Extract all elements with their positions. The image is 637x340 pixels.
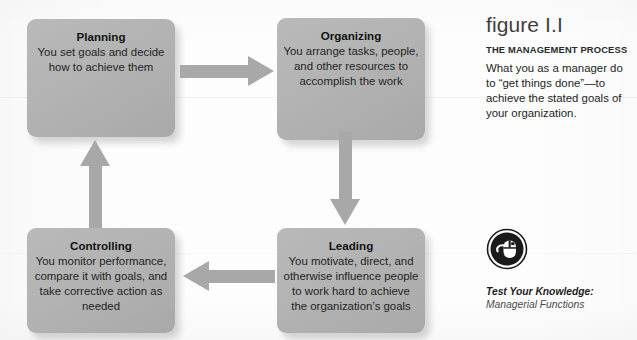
process-box-leading[interactable]: Leading You motivate, direct, and otherw… <box>277 228 425 333</box>
process-box-body: You set goals and decide how to achieve … <box>33 45 169 75</box>
figure-description: What you as a manager do to “get things … <box>486 61 634 122</box>
figure-number-label: figure I.I <box>486 14 634 35</box>
arrow-right-icon <box>180 56 274 86</box>
management-process-diagram: Planning You set goals and decide how to… <box>0 0 470 340</box>
process-box-title: Organizing <box>283 28 419 43</box>
process-box-title: Controlling <box>33 238 169 253</box>
arrow-down-icon <box>330 131 360 225</box>
arrow-left-icon <box>183 261 275 291</box>
figure-subtitle: THE MANAGEMENT PROCESS <box>486 44 634 55</box>
process-box-title: Leading <box>283 238 419 253</box>
arrow-shaft <box>89 164 102 228</box>
process-box-body: You monitor performance, compare it with… <box>33 254 169 313</box>
arrow-shaft <box>180 65 252 78</box>
arrow-shaft <box>207 270 275 283</box>
process-box-organizing[interactable]: Organizing You arrange tasks, people, an… <box>277 18 425 140</box>
test-your-knowledge-title: Test Your Knowledge: <box>486 286 636 297</box>
process-box-controlling[interactable]: Controlling You monitor performance, com… <box>27 228 175 333</box>
test-your-knowledge-block[interactable]: Test Your Knowledge: Managerial Function… <box>486 228 636 310</box>
process-box-planning[interactable]: Planning You set goals and decide how to… <box>27 19 175 137</box>
process-box-body: You motivate, direct, and otherwise infl… <box>283 254 419 313</box>
process-box-title: Planning <box>33 29 169 44</box>
arrow-shaft <box>339 131 352 203</box>
process-box-body: You arrange tasks, people, and other res… <box>283 44 419 88</box>
arrow-head <box>183 261 209 291</box>
arrow-head <box>248 56 274 86</box>
test-your-knowledge-subtitle: Managerial Functions <box>486 299 636 310</box>
arrow-head <box>80 140 110 166</box>
figure-caption: figure I.I THE MANAGEMENT PROCESS What y… <box>486 14 634 122</box>
computer-mouse-icon <box>486 228 636 274</box>
arrow-up-icon <box>80 140 110 228</box>
arrow-head <box>330 199 360 225</box>
